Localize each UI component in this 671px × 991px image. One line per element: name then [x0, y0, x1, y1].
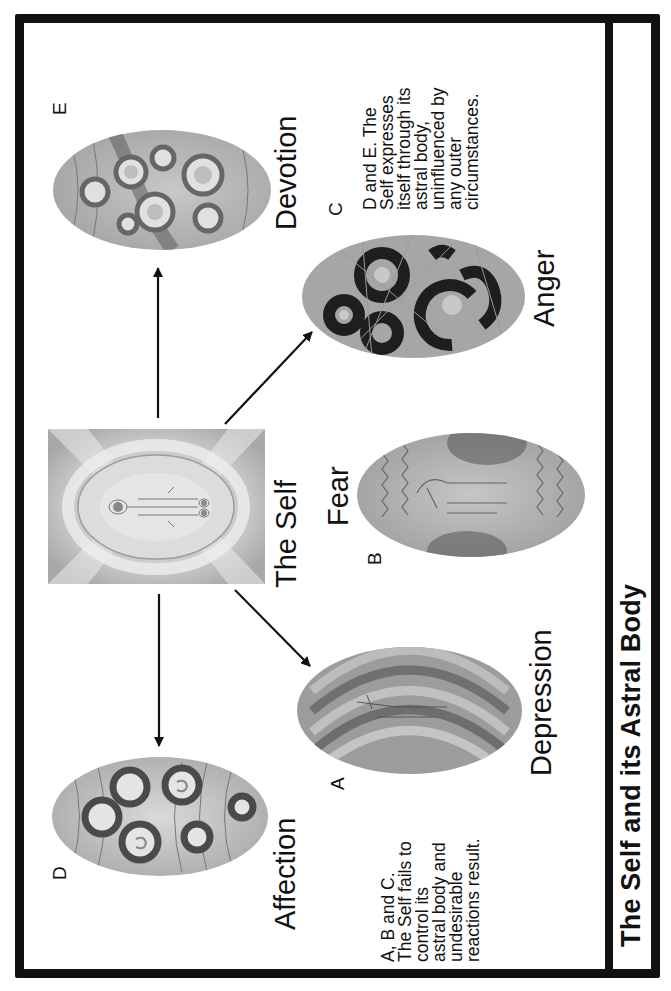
label-anger: Anger [530, 250, 559, 327]
egg-depression [297, 647, 522, 774]
label-the-self: The Self [272, 480, 301, 588]
egg-devotion [53, 130, 271, 250]
letter-b: B [365, 552, 384, 565]
label-fear: Fear [324, 466, 353, 526]
letter-d: D [50, 866, 69, 880]
self-figure-icon [48, 429, 265, 584]
letter-c: C [326, 202, 345, 216]
note-abc: A, B and C. The Self fails to control it… [380, 838, 482, 962]
label-depression: Depression [527, 629, 556, 776]
label-devotion: Devotion [272, 116, 301, 230]
egg-anger [302, 235, 525, 358]
egg-affection [52, 757, 268, 876]
letter-e: E [50, 102, 69, 115]
egg-fear [357, 433, 585, 557]
arrow-to-anger [225, 332, 312, 424]
self-illustration [48, 429, 265, 584]
letter-a: A [328, 777, 347, 790]
label-affection: Affection [271, 818, 300, 930]
note-de: D and E. The Self expresses itself throu… [362, 87, 481, 210]
arrow-to-depression [235, 590, 310, 666]
